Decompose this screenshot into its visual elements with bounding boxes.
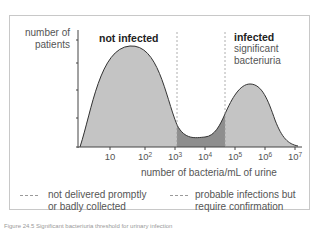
uncertain-area: [177, 114, 225, 147]
legend-right-line2: require confirmation: [195, 201, 296, 213]
legend-left: not delivered promptly or badly collecte…: [48, 189, 146, 213]
x-tick-6: 106: [258, 151, 272, 162]
y-axis-label-line1: number of: [18, 27, 70, 39]
infected-label-group: infected significant bacteriuria: [234, 31, 281, 67]
legend-right: probable infections but require confirma…: [195, 189, 296, 213]
legend-left-line2: or badly collected: [48, 201, 146, 213]
x-tick-3: 103: [168, 151, 182, 162]
x-tick-4: 104: [198, 151, 212, 162]
significant-label: significant: [234, 43, 281, 55]
not-infected-label: not infected: [99, 32, 159, 44]
bacteriuria-label: bacteriuria: [234, 55, 281, 67]
x-tick-1: 10: [105, 151, 116, 162]
legend-right-line1: probable infections but: [195, 189, 296, 201]
figure-caption: Figure 24.5 Significant bacteriuria thre…: [4, 223, 172, 229]
x-tick-7: 107: [288, 151, 302, 162]
x-tick-5: 105: [228, 151, 242, 162]
legend-dash-left: [20, 195, 38, 196]
y-axis-label-line2: patients: [18, 39, 70, 51]
y-axis-label: number of patients: [18, 27, 70, 51]
x-tick-2: 102: [138, 151, 152, 162]
x-axis-label: number of bacteria/mL of urine: [141, 167, 277, 179]
legend-dash-right: [170, 195, 188, 196]
infected-label: infected: [234, 31, 281, 43]
legend-left-line1: not delivered promptly: [48, 189, 146, 201]
